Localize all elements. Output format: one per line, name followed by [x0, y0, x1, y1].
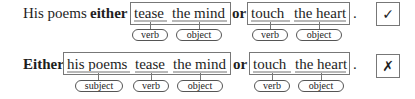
connector	[150, 22, 151, 29]
sentence1-prefix: His poems	[23, 4, 87, 22]
connector	[200, 73, 201, 80]
label-verb: verb	[132, 29, 168, 41]
label-subject: subject	[75, 80, 123, 92]
label-object: object	[177, 80, 223, 92]
sentence2-conj-or: or	[233, 55, 247, 73]
label-verb: verb	[254, 80, 290, 92]
label-verb: verb	[252, 29, 288, 41]
label-object: object	[296, 29, 342, 41]
connector	[272, 73, 273, 80]
connector	[319, 22, 320, 29]
sentence1-conj-either: either	[90, 4, 127, 22]
connector	[270, 22, 271, 29]
label-object: object	[176, 29, 222, 41]
sentence1-conj-or: or	[232, 4, 246, 22]
connector	[321, 73, 322, 80]
check-icon: ✓	[376, 2, 400, 26]
connector	[151, 73, 152, 80]
label-object: object	[298, 80, 344, 92]
cross-icon: ✗	[376, 54, 400, 78]
period: .	[353, 55, 357, 73]
sentence2-conj-either: Either	[23, 55, 64, 73]
connector	[199, 22, 200, 29]
connector	[98, 73, 99, 80]
period: .	[353, 4, 357, 22]
label-verb: verb	[133, 80, 169, 92]
underline	[294, 20, 346, 22]
